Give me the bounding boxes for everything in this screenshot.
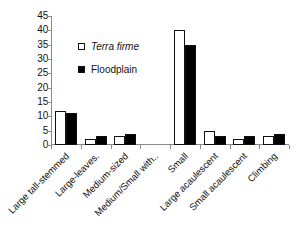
bar-floodplain — [185, 45, 196, 145]
y-axis-tick-label: 20 — [26, 83, 48, 93]
y-axis-tick-label: 45 — [26, 11, 48, 21]
bar-terra-firme — [233, 139, 244, 145]
y-axis-tick-label: 5 — [26, 126, 48, 136]
bar-floodplain — [244, 136, 255, 145]
plot-area: 051015202530354045 Terra firme Floodplai… — [0, 0, 298, 233]
bar-terra-firme — [85, 139, 96, 145]
bar-terra-firme — [114, 136, 125, 145]
bar-floodplain — [66, 113, 77, 145]
y-axis-tick-label: 35 — [26, 40, 48, 50]
x-axis-tick-label: Climbing — [246, 151, 279, 184]
y-axis-tick-labels: 051015202530354045 — [24, 0, 48, 145]
bar-terra-firme — [263, 136, 274, 145]
legend-item-terra-firme: Terra firme — [78, 40, 139, 52]
open-square-icon — [78, 43, 85, 50]
x-axis-tick-label: Small acaulescent — [188, 151, 250, 213]
bar-floodplain — [215, 136, 226, 145]
x-axis-labels: Large tall-stemmedLarge-leaves.Medium-si… — [0, 147, 298, 233]
y-axis-tick-label: 25 — [26, 68, 48, 78]
bar-terra-firme — [174, 30, 185, 145]
y-axis-tick-label: 30 — [26, 54, 48, 64]
bar-floodplain — [96, 136, 107, 145]
legend-label-terra-firme: Terra firme — [91, 41, 139, 52]
legend-item-floodplain: Floodplain — [78, 63, 139, 75]
x-axis-tick-label: Small — [166, 151, 190, 175]
legend-label-floodplain: Floodplain — [91, 64, 137, 75]
y-axis-tick-label: 10 — [26, 111, 48, 121]
y-axis-tick-label: 15 — [26, 97, 48, 107]
bar-terra-firme — [204, 131, 215, 145]
bar-terra-firme — [55, 111, 66, 145]
bar-floodplain — [274, 134, 285, 145]
bar-floodplain — [125, 134, 136, 145]
chart-legend: Terra firme Floodplain — [78, 40, 139, 86]
y-axis-tick-label: 40 — [26, 25, 48, 35]
filled-square-icon — [78, 66, 85, 73]
bar-chart: 051015202530354045 Terra firme Floodplai… — [0, 0, 298, 233]
